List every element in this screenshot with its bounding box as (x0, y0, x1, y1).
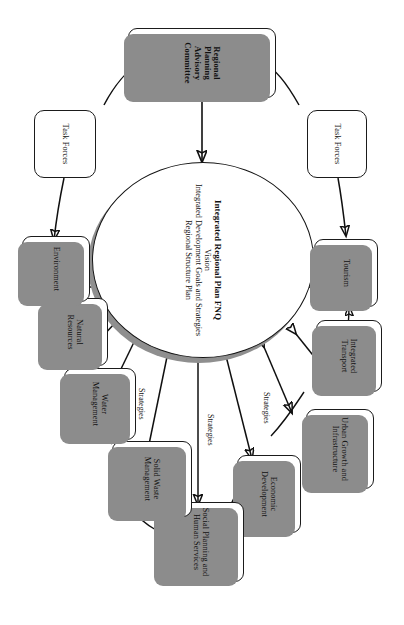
node-regional-planning-advisory-committee[interactable]: Regional Planning Advisory Committee (128, 28, 276, 98)
link-economic-center (226, 356, 252, 459)
center-ellipse: Integrated Regional Plan FNQ Vision Inte… (92, 162, 314, 358)
link-urban-transport (271, 392, 304, 436)
node-water-management[interactable]: Water Management (64, 368, 136, 440)
node-label: Environment (51, 247, 60, 291)
diagram-canvas: Integrated Regional Plan FNQ Vision Inte… (0, 0, 404, 625)
node-label: Task Forces (60, 124, 69, 165)
node-task-forces-bottom[interactable]: Task Forces (34, 110, 96, 178)
node-economic-development[interactable]: Economic Development (237, 455, 301, 533)
node-environment[interactable]: Environment (22, 236, 90, 302)
edge-label-strategies-top: Strategies (262, 392, 271, 424)
node-integrated-transport[interactable]: Integrated Transport (316, 320, 382, 392)
node-solid-waste-management[interactable]: Solid Waste Management (112, 441, 192, 517)
node-label: Regional Planning Advisory Committee (183, 32, 222, 94)
center-title: Integrated Regional Plan FNQ (212, 200, 223, 320)
node-label: Urban Growth and Infrastructure (331, 413, 350, 485)
node-natural-resources[interactable]: Natural Resources (42, 298, 108, 366)
node-label: Economic Development (260, 459, 279, 529)
node-label: Water Management (91, 372, 110, 436)
node-label: Social Planning and Human Services (192, 506, 211, 578)
center-structure-plan: Regional Structure Plan (183, 220, 193, 300)
node-urban-growth-and-infrastructure[interactable]: Urban Growth and Infrastructure (306, 409, 374, 489)
link-taskforce-top-tourism (338, 178, 346, 236)
edge-label-strategies-bottom: Strategies (137, 388, 146, 420)
center-vision: Vision (203, 249, 213, 271)
node-label: Tourism (341, 259, 350, 287)
center-goals: Integrated Development Goals and Strateg… (193, 184, 203, 336)
link-taskforce-bottom-environment (54, 178, 64, 240)
node-label: Integrated Transport (340, 324, 359, 388)
node-label: Natural Resources (66, 302, 85, 362)
node-task-forces-top[interactable]: Task Forces (307, 110, 367, 178)
diagram-page: Integrated Regional Plan FNQ Vision Inte… (0, 0, 404, 625)
edge-label-strategies-middle: Strategies (206, 414, 215, 446)
node-label: Task Forces (332, 124, 341, 165)
node-label: Solid Waste Management (143, 445, 162, 513)
node-tourism[interactable]: Tourism (314, 239, 378, 307)
